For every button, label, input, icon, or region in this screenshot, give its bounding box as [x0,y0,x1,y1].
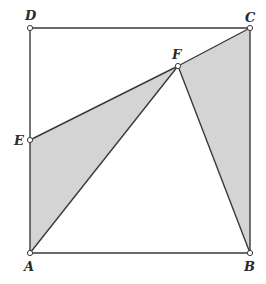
label-f: F [171,47,182,62]
vertex-b [247,250,252,255]
label-a: A [22,259,34,274]
geometry-diagram: D C F E A B [0,0,266,284]
vertex-e [27,137,32,142]
label-d: D [24,8,37,23]
label-e: E [13,133,25,148]
vertex-d [27,25,32,30]
vertex-c [247,25,252,30]
vertex-a [27,250,32,255]
vertex-f [175,63,180,68]
label-b: B [243,259,255,274]
label-c: C [245,10,256,25]
shaded-triangle-bcf [178,28,250,253]
